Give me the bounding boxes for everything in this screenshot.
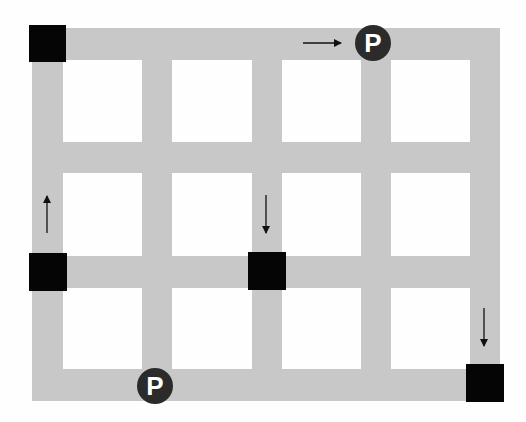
parking-bottom-icon: P	[137, 368, 173, 404]
block-center	[248, 252, 286, 290]
block-bottom-right	[466, 364, 504, 402]
horizontal-road	[32, 142, 500, 173]
vertical-road	[252, 28, 282, 401]
parking-top-icon: P	[355, 25, 391, 61]
vertical-road	[142, 28, 172, 401]
horizontal-road	[32, 28, 500, 60]
block-top-left	[29, 25, 66, 62]
vertical-road	[32, 28, 63, 401]
horizontal-road	[32, 369, 500, 401]
vertical-road	[361, 28, 391, 401]
vertical-road	[470, 28, 500, 401]
block-mid-left	[29, 253, 67, 291]
street-grid-diagram: PP	[0, 0, 526, 422]
